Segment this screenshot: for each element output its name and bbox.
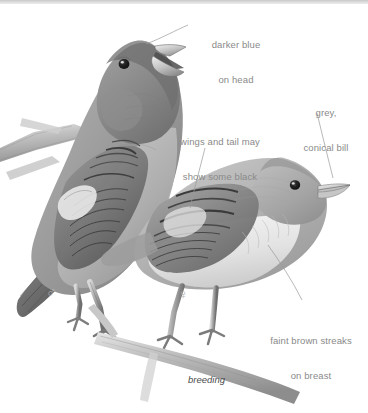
annotation-line-2: on head: [190, 74, 282, 86]
annotation-faint-brown-streaks: faint brown streaks on breast: [258, 312, 364, 404]
illustration-plate: darker blue on head grey, conical bill w…: [0, 0, 368, 413]
annotation-line-1: grey,: [286, 107, 366, 119]
annotation-grey-conical-bill: grey, conical bill: [286, 84, 366, 176]
top-edge-band: [0, 0, 368, 4]
female-symbol: ♀: [178, 287, 189, 301]
annotation-wings-and-tail: wings and tail may show some black: [168, 113, 272, 205]
annotation-line-2: on breast: [258, 370, 364, 382]
male-finch: [17, 40, 186, 342]
annotation-darker-blue-on-head: darker blue on head: [190, 16, 282, 108]
male-symbol: ♂: [46, 285, 57, 299]
leader-darker-blue: [146, 25, 188, 44]
annotation-line-2: conical bill: [286, 142, 366, 154]
annotation-line-1: darker blue: [190, 39, 282, 51]
female-legs: [158, 286, 224, 348]
caption-breeding: breeding: [188, 374, 248, 385]
annotation-line-1: faint brown streaks: [258, 335, 364, 347]
annotation-line-1: wings and tail may: [168, 136, 272, 148]
annotation-line-2: show some black: [168, 171, 272, 183]
